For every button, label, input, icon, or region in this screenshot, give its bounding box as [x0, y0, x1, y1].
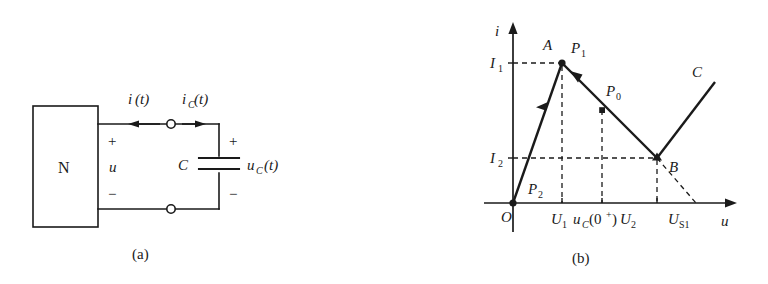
caption-b: (b)	[572, 250, 590, 267]
x-axis-label: u	[721, 213, 729, 229]
marker-p0	[599, 107, 605, 113]
curve-segment-rising	[513, 63, 562, 203]
point-label-p2-subscript: 2	[538, 189, 543, 200]
label-cap-voltage-subscript: C	[256, 165, 263, 176]
y-tick-label-i2: I 2	[489, 150, 503, 169]
x-tick-label-u1: U 1	[551, 211, 567, 230]
network-block-label: N	[58, 159, 70, 176]
port-voltage-label: u	[109, 159, 117, 175]
origin-label: O	[501, 209, 512, 225]
y-axis-arrowhead	[508, 22, 517, 34]
point-label-p0-subscript: 0	[616, 91, 621, 102]
capacitor-label: C	[178, 157, 189, 173]
y-axis-label: i	[495, 23, 499, 39]
label-current-ic-arg: (t)	[194, 91, 208, 108]
x-axis-arrowhead	[725, 198, 737, 207]
x-tick-label-uc0-open: (0	[589, 211, 602, 228]
cap-plus-sign: +	[229, 133, 237, 149]
point-label-p0: P 0	[605, 83, 621, 102]
figure-root: i (t) i C (t) N + u − C + −	[0, 0, 768, 284]
plot-svg: i u O I 1 I 2 U 1 u C	[384, 0, 768, 284]
x-tick-label-us1: U S1	[668, 211, 690, 230]
cap-minus-sign: −	[229, 186, 237, 202]
marker-p2	[509, 199, 516, 206]
current-arrow-ic	[182, 120, 206, 127]
label-current-ic: i C (t)	[182, 91, 208, 110]
x-tick-label-u1-subscript: 1	[562, 219, 567, 230]
x-tick-label-uc0-symbol: u	[573, 211, 581, 227]
point-label-p1-symbol: P	[570, 40, 580, 56]
y-tick-label-i2-subscript: 2	[498, 158, 503, 169]
x-tick-label-uc0: u C (0 + )	[573, 209, 617, 230]
label-current-i-arg: (t)	[135, 91, 149, 108]
point-label-p2-symbol: P	[527, 181, 537, 197]
label-cap-voltage-arg: (t)	[264, 157, 278, 174]
x-tick-label-u2-subscript: 2	[631, 219, 636, 230]
point-label-a: A	[542, 37, 553, 53]
label-cap-voltage-symbol: u	[247, 157, 255, 173]
x-tick-label-u2: U 2	[620, 211, 636, 230]
terminal-node-bottom	[167, 205, 175, 213]
point-label-c: C	[692, 64, 703, 80]
marker-p1	[558, 59, 565, 66]
curve-segment-rising-2	[657, 82, 715, 158]
point-label-b: B	[669, 159, 678, 175]
y-tick-label-i1-subscript: 1	[498, 63, 503, 74]
terminal-node-top	[167, 120, 175, 128]
x-tick-label-uc0-close: )	[612, 211, 617, 228]
label-current-ic-symbol: i	[182, 91, 186, 107]
caption-a: (a)	[132, 246, 149, 263]
plot-panel: i u O I 1 I 2 U 1 u C	[384, 0, 768, 284]
label-cap-voltage: u C (t)	[247, 157, 278, 176]
axes	[484, 30, 729, 232]
circuit-panel: i (t) i C (t) N + u − C + −	[0, 0, 384, 284]
point-label-p0-symbol: P	[605, 83, 615, 99]
port-plus-sign: +	[108, 133, 116, 149]
port-minus-sign: −	[108, 186, 116, 202]
circuit-svg: i (t) i C (t) N + u − C + −	[0, 0, 384, 284]
y-tick-label-i2-symbol: I	[489, 150, 496, 166]
point-label-p1-subscript: 1	[581, 48, 586, 59]
label-current-i: i (t)	[128, 91, 149, 108]
label-current-i-symbol: i	[128, 91, 132, 107]
current-arrow-i	[128, 120, 160, 127]
x-tick-label-uc0-subscript: C	[582, 219, 589, 230]
y-tick-label-i1: I 1	[489, 55, 503, 74]
point-label-p1: P 1	[570, 40, 586, 59]
point-label-p2: P 2	[527, 181, 543, 200]
y-tick-label-i1-symbol: I	[489, 55, 496, 71]
x-tick-label-us1-subscript: S1	[679, 219, 690, 230]
guide-lines	[513, 63, 696, 203]
